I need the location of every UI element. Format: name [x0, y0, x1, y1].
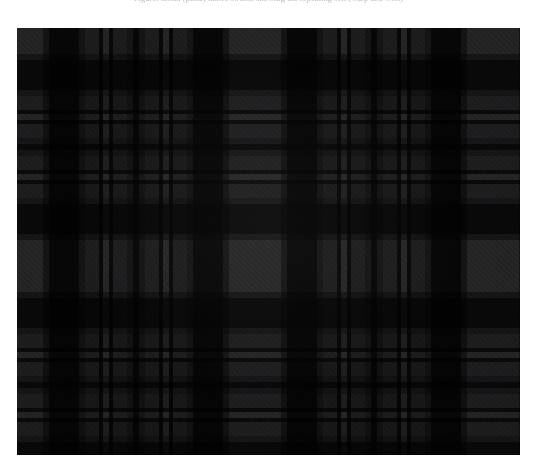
figure-caption-text: Figure: tartan (plaid) fabric swatch sho… — [134, 0, 403, 4]
swatch-vignette — [17, 28, 520, 455]
tartan-plaid-swatch — [17, 28, 520, 455]
figure-caption-strip: Figure: tartan (plaid) fabric swatch sho… — [0, 0, 537, 11]
